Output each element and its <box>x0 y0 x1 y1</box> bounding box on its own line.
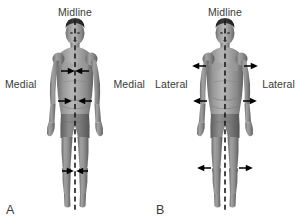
human-body-anterior-icon <box>150 0 300 221</box>
midline-label-a: Midline <box>58 7 92 18</box>
panel-b: Midline Lateral Lateral B <box>150 0 300 221</box>
panel-letter-b: B <box>156 204 164 217</box>
midline-label-b: Midline <box>208 7 242 18</box>
panel-letter-a: A <box>6 204 14 217</box>
direction-label-left-b: Lateral <box>155 79 188 90</box>
direction-label-right-b: Lateral <box>262 79 295 90</box>
human-body-anterior-icon <box>0 0 150 221</box>
anatomy-figure: Midline Medial Medial A <box>0 0 300 221</box>
direction-label-left-a: Medial <box>5 79 37 90</box>
direction-label-right-a: Medial <box>113 79 145 90</box>
panel-a: Midline Medial Medial A <box>0 0 150 221</box>
